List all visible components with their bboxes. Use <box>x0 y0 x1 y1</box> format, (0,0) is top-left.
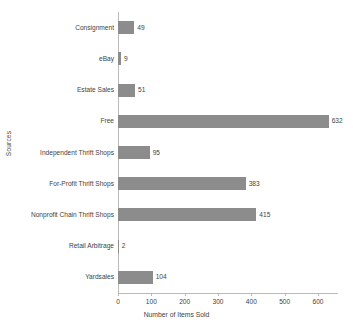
x-tick <box>118 293 119 296</box>
bar-value-label: 49 <box>137 24 144 31</box>
bar-value-label: 95 <box>153 149 160 156</box>
bar-value-label: 632 <box>332 117 343 124</box>
bar-value-label: 415 <box>259 211 270 218</box>
x-tick-label: 600 <box>298 298 338 305</box>
category-label: Nonprofit Chain Thrift Shops <box>0 211 114 218</box>
bar <box>118 271 153 284</box>
bar-value-label: 9 <box>124 55 128 62</box>
x-tick <box>285 293 286 296</box>
category-label: Consignment <box>0 24 114 31</box>
category-label: Yardsales <box>0 273 114 280</box>
category-label: Estate Sales <box>0 86 114 93</box>
x-tick <box>218 293 219 296</box>
x-tick <box>318 293 319 296</box>
bar <box>118 84 135 97</box>
x-tick <box>251 293 252 296</box>
bar-value-label: 383 <box>249 180 260 187</box>
bar <box>118 146 150 159</box>
bar <box>118 52 121 65</box>
category-label: Free <box>0 117 114 124</box>
category-label: For-Profit Thrift Shops <box>0 180 114 187</box>
bar <box>118 240 119 253</box>
category-label: Independent Thrift Shops <box>0 149 114 156</box>
category-label: Retail Arbitrage <box>0 242 114 249</box>
bar-value-label: 2 <box>122 242 126 249</box>
bar-chart: Sources 0100200300400500600 Consignment4… <box>0 0 353 331</box>
x-tick <box>151 293 152 296</box>
x-tick <box>185 293 186 296</box>
category-label: eBay <box>0 55 114 62</box>
bar <box>118 21 134 34</box>
bar <box>118 208 256 221</box>
bar <box>118 177 246 190</box>
bar <box>118 115 329 128</box>
bar-value-label: 104 <box>156 273 167 280</box>
bar-value-label: 51 <box>138 86 145 93</box>
x-axis-title: Number of Items Sold <box>0 311 353 318</box>
